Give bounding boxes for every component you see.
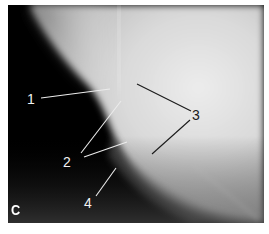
- panel-letter: C: [11, 202, 20, 217]
- label-3: 3: [192, 108, 200, 122]
- radiograph-rendering: [8, 5, 264, 223]
- label-4: 4: [84, 196, 92, 210]
- radiograph-image: 1 2 3 4 C: [8, 5, 264, 223]
- figure-page: 1 2 3 4 C: [0, 0, 269, 234]
- label-1: 1: [27, 92, 35, 106]
- label-2: 2: [63, 155, 71, 169]
